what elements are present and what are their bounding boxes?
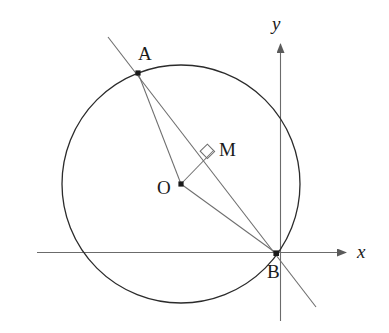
radius-ob-line — [181, 184, 276, 253]
point-a-marker — [135, 70, 140, 75]
point-a-label: A — [138, 44, 152, 63]
geometry-figure: A B O M x y — [0, 0, 389, 333]
geometry-canvas — [0, 0, 389, 333]
x-axis-label: x — [357, 242, 365, 261]
point-b-marker — [273, 250, 279, 256]
radius-oa-line — [138, 73, 181, 184]
point-o-marker — [178, 181, 183, 186]
center-o-label: O — [157, 178, 171, 197]
point-b-label: B — [267, 262, 280, 281]
y-axis-label: y — [272, 14, 280, 33]
point-m-label: M — [219, 140, 236, 159]
